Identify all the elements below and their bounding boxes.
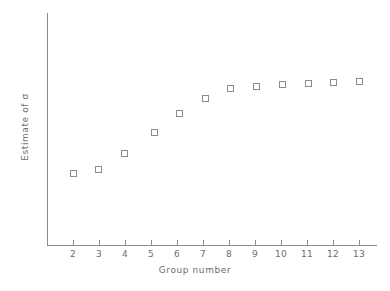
- x-axis-tick: [255, 240, 256, 245]
- x-axis-tick-label: 9: [243, 249, 267, 260]
- data-point: [70, 170, 77, 177]
- x-axis-line: [47, 245, 377, 246]
- x-axis-tick: [333, 240, 334, 245]
- x-axis-tick-label: 3: [87, 249, 111, 260]
- data-point: [253, 83, 260, 90]
- x-axis-tick: [203, 240, 204, 245]
- x-axis-tick-label: 4: [113, 249, 137, 260]
- data-point: [202, 95, 209, 102]
- x-axis-tick: [307, 240, 308, 245]
- x-axis-tick-label: 11: [295, 249, 319, 260]
- x-axis-tick: [229, 240, 230, 245]
- x-axis-tick: [73, 240, 74, 245]
- x-axis-tick-label: 10: [269, 249, 293, 260]
- x-axis-tick: [177, 240, 178, 245]
- data-point: [227, 85, 234, 92]
- x-axis-tick-label: 6: [165, 249, 189, 260]
- x-axis-tick: [359, 240, 360, 245]
- data-point: [151, 129, 158, 136]
- x-axis-tick: [281, 240, 282, 245]
- data-point: [305, 80, 312, 87]
- y-axis-line: [47, 13, 48, 246]
- data-point: [176, 110, 183, 117]
- x-axis-tick-label: 5: [139, 249, 163, 260]
- data-point: [356, 78, 363, 85]
- x-axis-tick-label: 13: [347, 249, 371, 260]
- data-point: [95, 166, 102, 173]
- x-axis-tick: [99, 240, 100, 245]
- x-axis-tick-label: 12: [321, 249, 345, 260]
- x-axis-tick-label: 2: [61, 249, 85, 260]
- x-axis-tick: [125, 240, 126, 245]
- x-axis-tick: [151, 240, 152, 245]
- x-axis-title: Group number: [0, 265, 390, 275]
- x-axis-tick-label: 7: [191, 249, 215, 260]
- scatter-plot: 2345678910111213 Group number Estimate o…: [0, 0, 390, 291]
- data-point: [279, 81, 286, 88]
- y-axis-title: Estimate of σ: [20, 77, 30, 177]
- data-point: [121, 150, 128, 157]
- data-point: [330, 79, 337, 86]
- x-axis-tick-label: 8: [217, 249, 241, 260]
